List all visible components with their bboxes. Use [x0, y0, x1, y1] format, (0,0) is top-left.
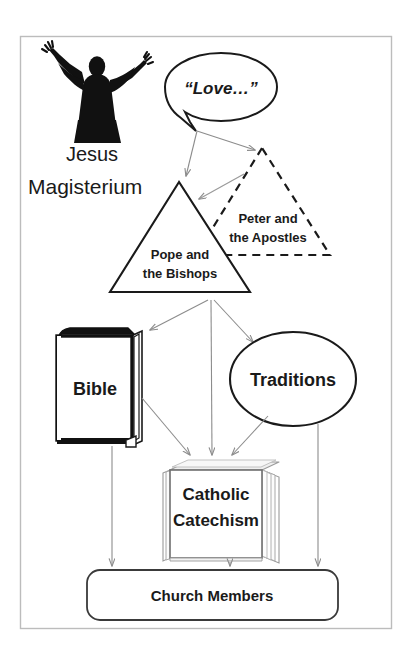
- peter-and-apostles-label-line2: the Apostles: [229, 230, 307, 245]
- diagram-canvas: Jesus “Love…” Magisterium Peter and the …: [0, 0, 413, 660]
- catechism-label-line1: Catholic: [182, 485, 249, 504]
- jesus-label: Jesus: [66, 143, 118, 165]
- peter-and-apostles-label-line1: Peter and: [238, 211, 297, 226]
- speech-bubble-text: “Love…”: [184, 79, 258, 98]
- magisterium-label: Magisterium: [28, 175, 142, 198]
- teaching-authority-diagram: Jesus “Love…” Magisterium Peter and the …: [0, 0, 413, 660]
- bible-label: Bible: [73, 379, 117, 399]
- catechism-label-line2: Catechism: [173, 511, 259, 530]
- church-members-label: Church Members: [151, 587, 274, 604]
- pope-and-bishops-label-line2: the Bishops: [143, 266, 217, 281]
- traditions-label: Traditions: [250, 370, 336, 390]
- pope-and-bishops-label-line1: Pope and: [151, 247, 210, 262]
